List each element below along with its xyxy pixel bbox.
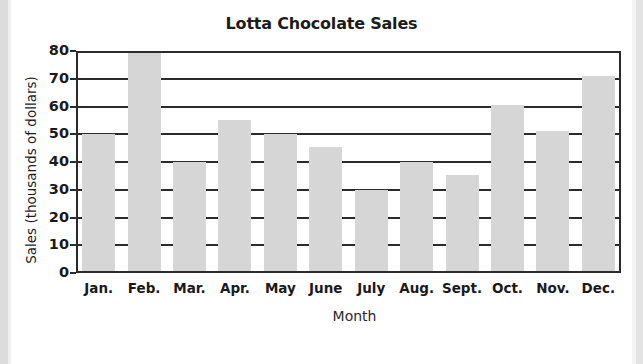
bar [446, 175, 479, 274]
y-axis-tick-label: 50 [29, 125, 69, 141]
page-edge-right-inner [632, 0, 636, 364]
x-axis-label: Month [88, 308, 621, 324]
page-edge-right [636, 0, 643, 364]
y-axis-tick-label: 60 [29, 98, 69, 114]
page-edge-left [0, 0, 8, 364]
y-axis-tick-label: 0 [29, 264, 69, 280]
x-axis-tick-label: Dec. [571, 280, 625, 296]
bar [536, 131, 569, 273]
y-axis-tick-label: 70 [29, 70, 69, 86]
bar-series [76, 51, 621, 273]
chart-title: Lotta Chocolate Sales [0, 14, 643, 33]
bar [400, 162, 433, 273]
bar [582, 76, 615, 273]
bar [309, 147, 342, 273]
bar [82, 134, 115, 273]
bar [218, 120, 251, 273]
bar [128, 51, 161, 273]
y-axis-tick-label: 20 [29, 209, 69, 225]
page-edge-left-inner [8, 0, 11, 364]
y-axis-tick-label: 30 [29, 181, 69, 197]
plot-area [76, 51, 621, 273]
y-axis-tick-label: 10 [29, 236, 69, 252]
bar [491, 105, 524, 273]
y-axis-tick-label: 80 [29, 42, 69, 58]
y-axis-tick-label: 40 [29, 153, 69, 169]
bar [173, 162, 206, 273]
bar [264, 134, 297, 273]
bar [355, 190, 388, 273]
